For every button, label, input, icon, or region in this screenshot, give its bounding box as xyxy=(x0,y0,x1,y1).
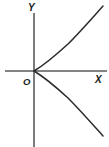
parabola-upper-branch xyxy=(34,6,103,71)
y-axis-label: Y xyxy=(28,2,36,13)
coordinate-plane-svg: Y X O xyxy=(0,0,109,147)
x-axis-label: X xyxy=(94,74,103,85)
coordinate-diagram: Y X O xyxy=(0,0,109,147)
parabola-lower-branch xyxy=(34,71,103,136)
origin-label: O xyxy=(23,76,31,87)
